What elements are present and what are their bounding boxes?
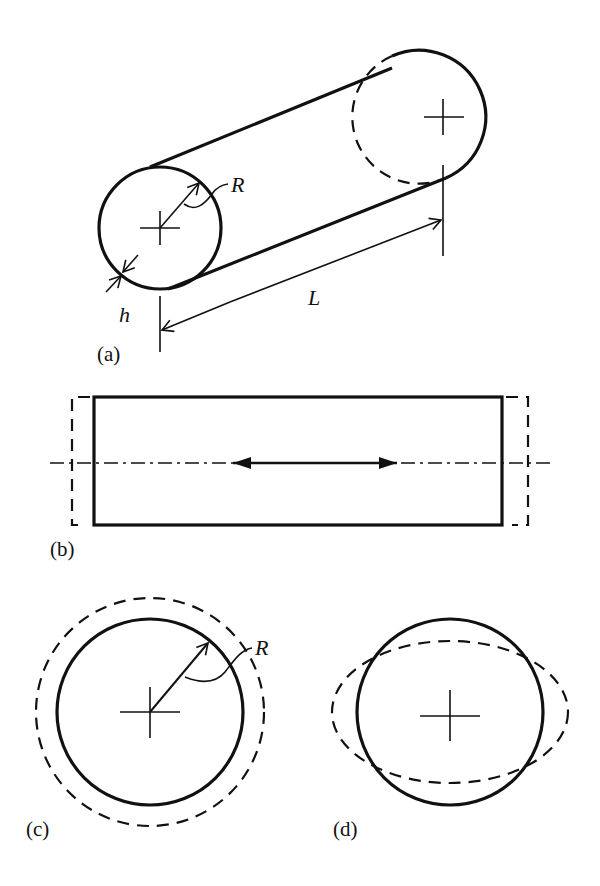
panel-label-c: (c)	[26, 817, 49, 841]
length-arrow-right	[230, 220, 441, 302]
radius-label: R	[230, 172, 245, 197]
center-mark-c	[120, 687, 180, 738]
thickness-arrow-outer	[123, 255, 138, 272]
radius-label-c: R	[254, 635, 269, 660]
panel-c: R (c)	[26, 598, 269, 841]
panel-b: (b)	[50, 397, 550, 561]
undeformed-shell-rect	[94, 397, 502, 525]
back-center-mark	[424, 99, 464, 135]
panel-d: (d)	[332, 619, 568, 841]
deformed-outline-left	[72, 397, 90, 525]
thickness-arrow-inner	[106, 276, 121, 292]
radius-arrow	[160, 183, 199, 228]
panel-a: R h L (a)	[97, 50, 486, 366]
back-end-circle-visible	[392, 50, 486, 178]
cylinder-modes-diagram: R h L (a) (b) R (c)	[0, 0, 600, 886]
length-label: L	[307, 285, 320, 310]
panel-label-a: (a)	[97, 342, 120, 366]
back-end-circle-hidden	[352, 56, 446, 184]
deformed-outline-right	[506, 397, 528, 525]
radius-leader-c	[185, 648, 252, 681]
panel-label-b: (b)	[50, 537, 75, 561]
center-mark-d	[420, 690, 480, 741]
cylinder-top-edge	[150, 68, 392, 167]
length-arrow-left	[162, 302, 230, 330]
thickness-label: h	[119, 302, 130, 327]
panel-label-d: (d)	[333, 817, 358, 841]
radius-arrow-c	[150, 643, 208, 712]
